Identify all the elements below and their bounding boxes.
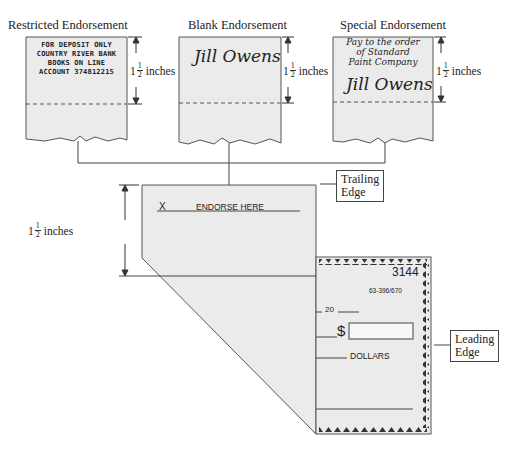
routing-number: 63-396/670 <box>369 287 402 294</box>
endorse-x-mark: X <box>159 201 166 212</box>
special-endorsement-title: Special Endorsement <box>340 18 446 33</box>
blank-endorsement-title: Blank Endorsement <box>188 18 287 33</box>
check-stub-shape <box>142 185 316 434</box>
stamp-line: ACCOUNT 374812215 <box>26 68 127 77</box>
check-face-shape <box>316 257 431 434</box>
endorse-here-label: ENDORSE HERE <box>196 202 264 212</box>
date-prefix: 20 <box>325 305 334 314</box>
callout-line: Edge <box>455 346 494 359</box>
blank-endorsement-signature: Jill Owens <box>194 46 281 66</box>
callout-line: Edge <box>341 186 379 199</box>
blank-dimension-label: 1 12 inches <box>283 62 328 79</box>
trailing-edge-callout: Trailing Edge <box>336 170 384 202</box>
stamp-line: COUNTRY RIVER BANK <box>26 50 127 59</box>
restricted-endorsement-title: Restricted Endorsement <box>8 18 128 33</box>
dollars-label: DOLLARS <box>350 351 390 361</box>
stamp-line: BOOKS ON LINE <box>26 59 127 68</box>
restricted-endorsement-text: FOR DEPOSIT ONLY COUNTRY RIVER BANK BOOK… <box>26 41 127 77</box>
special-line: of Standard <box>336 47 430 57</box>
special-endorsement-signature: Jill Owens <box>346 74 433 94</box>
special-line: Pay to the order <box>336 37 430 47</box>
restricted-dimension-label: 1 12 inches <box>130 62 175 79</box>
leading-edge-callout: Leading Edge <box>450 330 499 362</box>
check-dimension-label: 1 12 inches <box>28 222 73 239</box>
check-dimension-arrow <box>119 185 139 276</box>
special-line: Paint Company <box>336 57 430 67</box>
special-dimension-label: 1 12 inches <box>436 62 481 79</box>
check-number: 3144 <box>392 265 419 279</box>
stamp-line: FOR DEPOSIT ONLY <box>26 41 127 50</box>
dollar-sign: $ <box>337 322 345 339</box>
special-endorsement-text: Pay to the order of Standard Paint Compa… <box>336 37 430 67</box>
